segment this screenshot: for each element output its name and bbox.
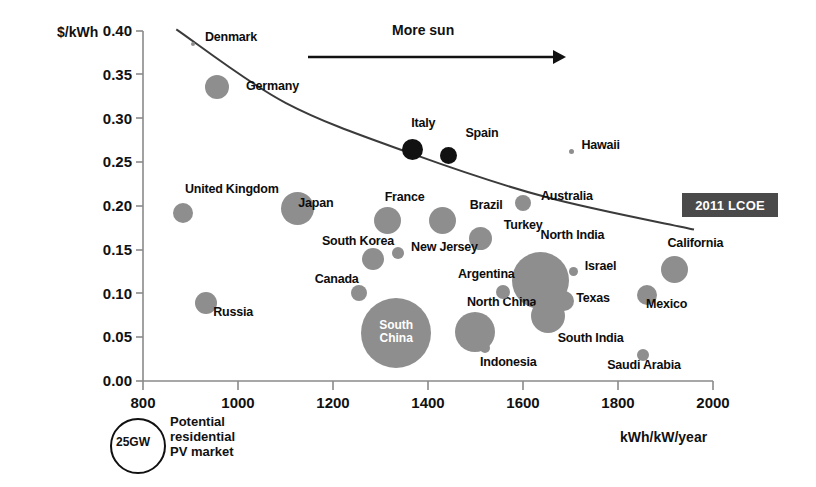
bubble-label-denmark: Denmark (205, 30, 257, 44)
chart-root: $/kWh kWh/kW/year 0.000.050.100.150.200.… (0, 0, 816, 487)
bubble-label-saudi-arabia: Saudi Arabia (607, 358, 681, 372)
bubble-label-hawaii: Hawaii (581, 138, 619, 152)
bubble-italy[interactable] (402, 139, 423, 160)
bubble-label-russia: Russia (213, 305, 253, 319)
x-axis-ticks (143, 381, 713, 390)
y-tick-label: 0.00 (88, 372, 132, 389)
bubble-label-south-india: South India (558, 331, 624, 345)
y-tick-label: 0.20 (88, 197, 132, 214)
bubble-label-texas: Texas (576, 291, 610, 305)
bubble-label-brazil: Brazil (470, 198, 503, 212)
more-sun-label: More sun (392, 22, 454, 38)
y-tick-label: 0.15 (88, 241, 132, 258)
bubble-label-france: France (385, 190, 425, 204)
y-axis-ticks (136, 31, 143, 381)
y-tick-label: 0.35 (88, 66, 132, 83)
y-tick-label: 0.10 (88, 285, 132, 302)
bubble-label-new-jersey: New Jersey (411, 240, 478, 254)
x-axis-title: kWh/kW/year (620, 429, 707, 445)
bubble-label-canada: Canada (315, 272, 359, 286)
bubble-denmark[interactable] (191, 42, 195, 46)
y-tick-label: 0.25 (88, 153, 132, 170)
y-tick-label: 0.40 (88, 22, 132, 39)
bubble-indonesia[interactable] (480, 343, 490, 353)
bubble-label-turkey: Turkey (504, 218, 543, 232)
bubble-label-indonesia: Indonesia (480, 355, 537, 369)
bubble-argentina[interactable] (496, 285, 510, 299)
bubble-label-israel: Israel (585, 259, 616, 273)
bubble-label-south-korea: South Korea (322, 234, 394, 248)
x-tick-label: 1000 (213, 394, 263, 411)
size-legend-caption: Potential residential PV market (170, 414, 235, 459)
x-tick-label: 1200 (308, 394, 358, 411)
bubble-label-italy: Italy (411, 116, 435, 130)
bubble-brazil[interactable] (429, 207, 456, 234)
lcoe-badge: 2011 LCOE (682, 193, 778, 217)
bubble-california[interactable] (661, 256, 688, 283)
y-tick-label: 0.30 (88, 110, 132, 127)
bubble-label-california: California (668, 236, 724, 250)
more-sun-arrow (308, 50, 566, 64)
bubble-label-mexico: Mexico (646, 297, 687, 311)
bubble-label-germany: Germany (246, 79, 299, 93)
bubble-france[interactable] (374, 207, 401, 234)
size-legend-value: 25GW (116, 435, 150, 450)
x-tick-label: 1600 (498, 394, 548, 411)
bubble-israel[interactable] (569, 267, 578, 276)
bubble-label-australia: Australia (541, 189, 593, 203)
x-tick-label: 1800 (593, 394, 643, 411)
bubble-texas[interactable] (554, 291, 574, 311)
bubble-label-north-india: North India (541, 228, 605, 242)
bubble-label-japan: Japan (298, 196, 333, 210)
bubble-label-united-kingdom: United Kingdom (185, 182, 279, 196)
bubble-germany[interactable] (205, 75, 229, 99)
x-tick-label: 800 (118, 394, 168, 411)
y-tick-label: 0.05 (88, 328, 132, 345)
bubble-label-south-china: South China (361, 319, 431, 345)
bubble-australia[interactable] (515, 195, 531, 211)
bubble-united-kingdom[interactable] (173, 203, 193, 223)
bubble-canada[interactable] (351, 285, 367, 301)
x-tick-label: 2000 (688, 394, 738, 411)
bubble-label-spain: Spain (465, 126, 498, 140)
bubble-label-argentina: Argentina (458, 267, 515, 281)
x-tick-label: 1400 (403, 394, 453, 411)
